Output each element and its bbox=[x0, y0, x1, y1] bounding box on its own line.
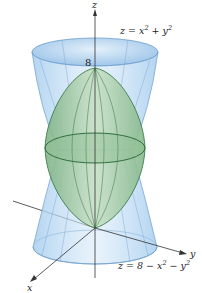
y-arrow-icon bbox=[179, 250, 187, 255]
x-axis-label: x bbox=[27, 282, 33, 293]
z-arrow-icon bbox=[93, 9, 97, 16]
paraboloid-equation-label: z = 8 − x2 − y2 bbox=[117, 259, 190, 271]
z-axis-label: z bbox=[91, 0, 98, 10]
z-tick-8: 8 bbox=[85, 57, 91, 68]
x-arrow-icon bbox=[30, 275, 37, 282]
cone-equation-label: z = x2 + y2 bbox=[119, 24, 172, 36]
y-axis-label: y bbox=[189, 248, 196, 259]
surface-diagram: z y x 8 z = x2 + y2 z = 8 − x2 − y2 bbox=[0, 0, 202, 293]
